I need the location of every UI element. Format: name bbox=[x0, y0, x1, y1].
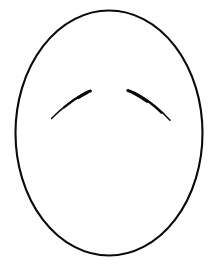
drawing-canvas: Blank face template with eyebrows bbox=[0, 0, 218, 267]
page-background bbox=[0, 0, 218, 267]
face-line-drawing bbox=[0, 0, 218, 267]
